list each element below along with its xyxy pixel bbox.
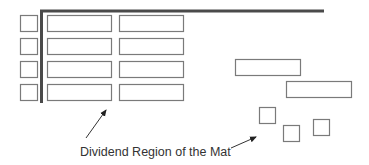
arrow-to-dividend-bars <box>86 110 106 138</box>
unit-tile <box>21 16 38 32</box>
unit-tile <box>21 39 38 55</box>
ten-bar-tile <box>48 39 112 55</box>
dividend-region-caption: Dividend Region of the Mat <box>80 145 231 159</box>
ten-bar-tile <box>120 62 184 78</box>
ten-bar-tile <box>48 16 112 32</box>
tiles-group <box>21 16 352 142</box>
loose-ten-bar-tile <box>236 60 301 76</box>
loose-ten-bar-tile <box>287 82 352 98</box>
loose-unit-tile <box>314 120 330 136</box>
division-mat-diagram: Dividend Region of the Mat <box>0 0 369 165</box>
unit-tile <box>21 62 38 78</box>
loose-unit-tile <box>284 126 300 142</box>
ten-bar-tile <box>120 16 184 32</box>
arrow-to-loose-tiles <box>231 137 256 148</box>
loose-unit-tile <box>260 108 276 124</box>
mat-drawing <box>0 0 369 165</box>
ten-bar-tile <box>48 85 112 101</box>
ten-bar-tile <box>120 39 184 55</box>
ten-bar-tile <box>48 62 112 78</box>
unit-tile <box>21 85 38 101</box>
ten-bar-tile <box>120 85 184 101</box>
